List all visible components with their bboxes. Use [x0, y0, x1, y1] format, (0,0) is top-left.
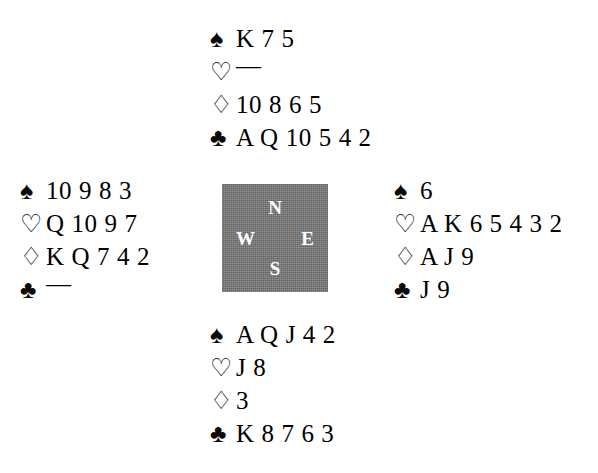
spade-icon: ♠ [20, 174, 46, 207]
hand-west-clubs: — [46, 267, 72, 300]
hand-east: ♠ 6 ♡ A K 6 5 4 3 2 ♢ A J 9 ♣ J 9 [394, 174, 563, 306]
hand-north-heart-row: ♡ — [210, 55, 372, 88]
diamond-icon: ♢ [210, 384, 236, 417]
hand-south-clubs: K 8 7 6 3 [236, 417, 334, 450]
hand-east-clubs: J 9 [420, 273, 450, 306]
diamond-icon: ♢ [210, 88, 236, 121]
hand-north-diamonds: 10 8 6 5 [236, 88, 322, 121]
hand-west-hearts: Q 10 9 7 [46, 207, 138, 240]
hand-west: ♠ 10 9 8 3 ♡ Q 10 9 7 ♢ K Q 7 4 2 ♣ — [20, 174, 150, 306]
hand-east-diamonds: A J 9 [420, 240, 474, 273]
compass-label-east: E [301, 229, 314, 248]
spade-icon: ♠ [210, 22, 236, 55]
heart-icon: ♡ [210, 55, 236, 88]
hand-north-spade-row: ♠ K 7 5 [210, 22, 372, 55]
hand-south-heart-row: ♡ J 8 [210, 351, 336, 384]
hand-east-club-row: ♣ J 9 [394, 273, 563, 306]
compass-label-south: S [222, 259, 328, 278]
club-icon: ♣ [20, 273, 46, 306]
hand-north-club-row: ♣ A Q 10 5 4 2 [210, 121, 372, 154]
compass-label-north: N [222, 198, 328, 217]
hand-south-spade-row: ♠ A Q J 4 2 [210, 318, 336, 351]
compass-box: N W E S [222, 184, 328, 292]
hand-west-spades: 10 9 8 3 [46, 174, 132, 207]
hand-west-heart-row: ♡ Q 10 9 7 [20, 207, 150, 240]
diamond-icon: ♢ [20, 240, 46, 273]
spade-icon: ♠ [210, 318, 236, 351]
heart-icon: ♡ [20, 207, 46, 240]
hand-north-hearts: — [236, 49, 262, 82]
hand-west-diamond-row: ♢ K Q 7 4 2 [20, 240, 150, 273]
spade-icon: ♠ [394, 174, 420, 207]
club-icon: ♣ [394, 273, 420, 306]
diamond-icon: ♢ [394, 240, 420, 273]
hand-south: ♠ A Q J 4 2 ♡ J 8 ♢ 3 ♣ K 8 7 6 3 [210, 318, 336, 450]
hand-east-spade-row: ♠ 6 [394, 174, 563, 207]
club-icon: ♣ [210, 417, 236, 450]
hand-east-hearts: A K 6 5 4 3 2 [420, 207, 563, 240]
hand-east-spades: 6 [420, 174, 433, 207]
hand-south-hearts: J 8 [236, 351, 266, 384]
heart-icon: ♡ [394, 207, 420, 240]
hand-south-diamond-row: ♢ 3 [210, 384, 336, 417]
hand-north-diamond-row: ♢ 10 8 6 5 [210, 88, 372, 121]
hand-west-club-row: ♣ — [20, 273, 150, 306]
hand-west-spade-row: ♠ 10 9 8 3 [20, 174, 150, 207]
hand-north: ♠ K 7 5 ♡ — ♢ 10 8 6 5 ♣ A Q 10 5 4 2 [210, 22, 372, 154]
hand-east-heart-row: ♡ A K 6 5 4 3 2 [394, 207, 563, 240]
hand-east-diamond-row: ♢ A J 9 [394, 240, 563, 273]
hand-south-diamonds: 3 [236, 384, 249, 417]
club-icon: ♣ [210, 121, 236, 154]
hand-south-spades: A Q J 4 2 [236, 318, 336, 351]
hand-south-club-row: ♣ K 8 7 6 3 [210, 417, 336, 450]
compass-label-west: W [236, 229, 255, 248]
hand-north-clubs: A Q 10 5 4 2 [236, 121, 372, 154]
heart-icon: ♡ [210, 351, 236, 384]
